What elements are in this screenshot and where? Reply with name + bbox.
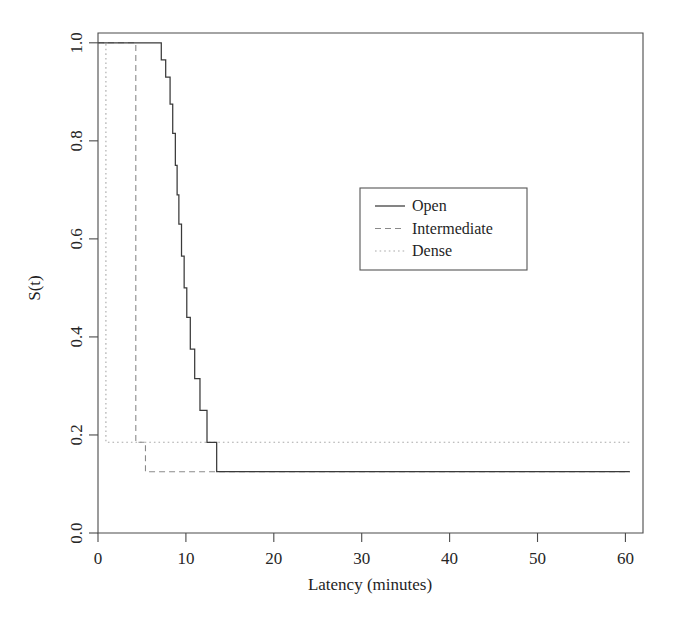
y-tick-label-0.4: 0.4: [67, 326, 86, 348]
y-tick-label-0.0: 0.0: [67, 522, 86, 543]
x-tick-label-30: 30: [353, 549, 370, 568]
x-tick-label-10: 10: [177, 549, 194, 568]
y-tick-label-0.2: 0.2: [67, 424, 86, 445]
y-axis-tick-labels: 0.00.20.40.60.81.0: [67, 32, 86, 543]
x-tick-label-40: 40: [441, 549, 458, 568]
legend-label-intermediate: Intermediate: [412, 220, 493, 237]
x-axis-title: Latency (minutes): [308, 575, 432, 594]
chart-legend: OpenIntermediateDense: [360, 188, 527, 270]
plot-frame: [98, 33, 643, 533]
x-tick-label-20: 20: [265, 549, 282, 568]
legend-label-open: Open: [412, 197, 447, 215]
x-axis-tick-labels: 0102030405060: [94, 549, 634, 568]
legend-label-dense: Dense: [412, 242, 452, 259]
y-tick-label-0.8: 0.8: [67, 130, 86, 151]
x-tick-label-50: 50: [529, 549, 546, 568]
x-tick-label-0: 0: [94, 549, 103, 568]
plot-canvas: 0102030405060 0.00.20.40.60.81.0 Latency…: [0, 0, 680, 629]
survival-curve-chart: 0102030405060 0.00.20.40.60.81.0 Latency…: [0, 0, 680, 629]
y-axis-ticks: [89, 43, 98, 533]
y-tick-label-0.6: 0.6: [67, 228, 86, 249]
y-axis-title: S(t): [25, 275, 44, 301]
axes-layer: 0102030405060 0.00.20.40.60.81.0: [67, 32, 643, 568]
y-tick-label-1.0: 1.0: [67, 32, 86, 53]
x-axis-ticks: [98, 533, 625, 542]
x-tick-label-60: 60: [617, 549, 634, 568]
